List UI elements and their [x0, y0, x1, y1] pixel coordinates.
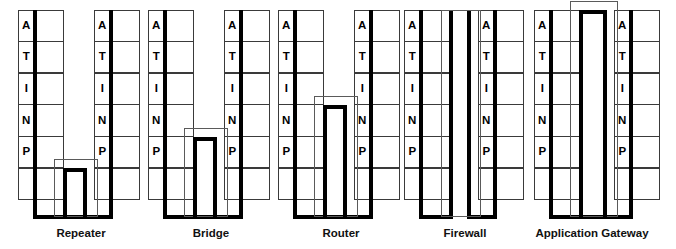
layer-cell-body — [241, 136, 271, 168]
stack-right-application-gateway: ATINP — [614, 10, 660, 200]
layer-cell-body — [111, 41, 141, 73]
layer-cell-body — [371, 168, 401, 200]
layer-cell-body — [631, 136, 661, 168]
layer-cell-body — [165, 73, 195, 105]
middle-frame-bridge — [184, 128, 228, 217]
layer-cell-body — [495, 168, 525, 200]
layer-cell-body — [631, 73, 661, 105]
stack-spine — [239, 10, 243, 200]
bump-riser-right-repeater — [83, 168, 87, 219]
layer-cell-body — [111, 136, 141, 168]
device-caption-application-gateway: Application Gateway — [508, 228, 676, 240]
stack-spine — [33, 10, 37, 200]
layer-cell-body — [111, 73, 141, 105]
stack-spine — [549, 10, 553, 200]
bump-riser-left-repeater — [63, 168, 67, 219]
bump-riser-right-router — [343, 105, 347, 219]
layer-cell-body — [241, 41, 271, 73]
layer-cell-body — [35, 104, 65, 136]
bump-riser-left-bridge — [193, 137, 197, 219]
layer-cell-body — [371, 10, 401, 42]
device-caption-router: Router — [282, 228, 400, 240]
osi-device-layer-diagram: ATINPATINPRepeaterATINPATINPBridgeATINPA… — [0, 0, 676, 249]
layer-cell-body — [371, 41, 401, 73]
bump-top-bridge — [193, 137, 217, 141]
layer-cell-body — [165, 41, 195, 73]
layer-cell-body — [241, 168, 271, 200]
layer-cell-body — [495, 10, 525, 42]
stack-spine — [419, 10, 423, 200]
layer-cell-body — [495, 41, 525, 73]
layer-cell-body — [241, 73, 271, 105]
layer-cell-body — [35, 41, 65, 73]
device-caption-firewall: Firewall — [406, 228, 524, 240]
stack-right-repeater: ATINP — [94, 10, 140, 200]
layer-cell-body — [241, 104, 271, 136]
bump-top-router — [323, 105, 347, 109]
stack-spine — [293, 10, 297, 200]
bump-riser-left-application-gateway — [579, 10, 583, 219]
layer-cell-body — [111, 168, 141, 200]
layer-cell-body — [111, 10, 141, 42]
layer-cell-body — [295, 41, 325, 73]
layer-cell-body — [495, 104, 525, 136]
stack-right-bridge: ATINP — [224, 10, 270, 200]
layer-cell-body — [495, 136, 525, 168]
layer-cell-body — [35, 10, 65, 42]
stack-spine — [629, 10, 633, 200]
bump-top-repeater — [63, 168, 87, 172]
stack-right-firewall: ATINP — [478, 10, 524, 200]
bump-riser-right-application-gateway — [603, 10, 607, 219]
middle-frame-router — [314, 96, 358, 217]
layer-cell-body — [165, 10, 195, 42]
bump-top-application-gateway — [579, 10, 607, 14]
bump-riser-right-bridge — [213, 137, 217, 219]
layer-cell-body — [295, 10, 325, 42]
layer-cell-body — [111, 104, 141, 136]
layer-cell-body — [631, 104, 661, 136]
stack-spine — [493, 10, 497, 200]
layer-cell-body — [631, 168, 661, 200]
layer-cell-body — [495, 73, 525, 105]
device-caption-bridge: Bridge — [152, 228, 270, 240]
middle-frame-application-gateway — [570, 1, 618, 217]
stack-spine — [163, 10, 167, 200]
stack-right-router: ATINP — [354, 10, 400, 200]
layer-cell-body — [241, 10, 271, 42]
device-caption-repeater: Repeater — [22, 228, 140, 240]
layer-cell-body — [631, 10, 661, 42]
layer-cell-body — [631, 41, 661, 73]
stack-spine — [369, 10, 373, 200]
layer-cell-body — [371, 104, 401, 136]
stack-spine — [109, 10, 113, 200]
layer-cell-body — [35, 73, 65, 105]
middle-frame-firewall — [441, 10, 481, 217]
layer-cell-body — [371, 136, 401, 168]
layer-cell-body — [371, 73, 401, 105]
bump-riser-left-router — [323, 105, 327, 219]
